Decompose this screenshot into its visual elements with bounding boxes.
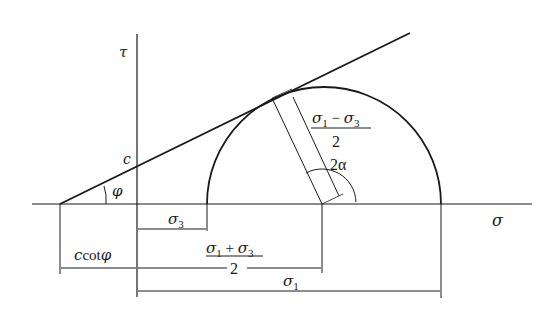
tau-axis-label: τ: [119, 43, 128, 61]
radius-ext-top: [272, 89, 292, 98]
angle-phi-arc: [104, 186, 106, 204]
angle-2alpha-label: 2α: [330, 156, 347, 173]
sigma-axis-label: σ: [492, 211, 504, 230]
mohr-coulomb-diagram: τ σ c φ σ3 ccotφ σ1 + σ3 2 σ1 σ1 − σ3 2 …: [0, 0, 549, 320]
center-denominator: 2: [230, 260, 238, 277]
ccotphi-label: ccotφ: [74, 246, 112, 264]
radius-ext-bottom: [322, 194, 343, 204]
radius-denominator: 2: [332, 133, 340, 150]
sigma1-label: σ1: [283, 272, 299, 292]
mohr-circle: [207, 87, 441, 204]
radius-numerator: σ1 − σ3: [312, 109, 360, 129]
cohesion-label: c: [123, 151, 131, 167]
phi-label: φ: [112, 182, 123, 200]
sigma3-label: σ3: [168, 210, 184, 230]
